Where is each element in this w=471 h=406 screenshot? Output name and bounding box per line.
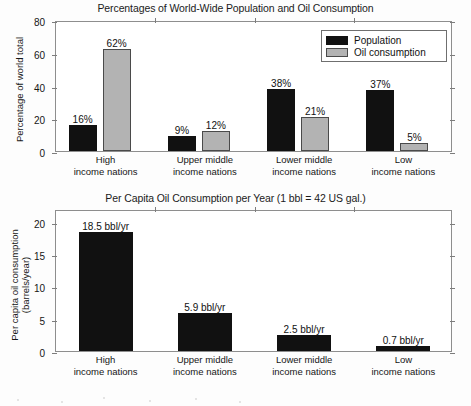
y-axis-tick: 10 bbox=[52, 288, 57, 289]
bottom-chart-title: Per Capita Oil Consumption per Year (1 b… bbox=[0, 192, 471, 204]
two-panel-bar-chart-figure: Percentages of World-Wide Population and… bbox=[0, 0, 471, 406]
bar-value-label: 21% bbox=[305, 106, 325, 117]
bar-value-label: 38% bbox=[271, 78, 291, 89]
x-axis-category-label: Lowincome nations bbox=[371, 154, 435, 178]
y-axis-tick-label: 5 bbox=[39, 315, 45, 326]
x-axis-category-label: Lower middleincome nations bbox=[272, 354, 336, 378]
y-axis-tick-label: 0 bbox=[39, 148, 45, 159]
bottom-chart-panel: Per Capita Oil Consumption per Year (1 b… bbox=[0, 192, 471, 406]
bar-population-0[interactable]: 16% bbox=[69, 125, 97, 151]
bar-population-3[interactable]: 37% bbox=[366, 90, 394, 151]
category-label-line-2: income nations bbox=[371, 366, 435, 378]
scan-artifact bbox=[0, 394, 471, 406]
y-axis-tick-right bbox=[450, 256, 455, 257]
y-axis-tick: 80 bbox=[52, 22, 57, 23]
legend-item-label: Oil consumption bbox=[354, 47, 426, 58]
y-axis-tick-right bbox=[450, 22, 455, 23]
bar-per-capita-oil-consumption-1[interactable]: 5.9 bbl/yr bbox=[178, 313, 232, 351]
y-axis-tick: 60 bbox=[52, 55, 57, 56]
bar-population-2[interactable]: 38% bbox=[267, 89, 295, 151]
x-axis-tick-top bbox=[155, 18, 156, 23]
y-axis-tick-right bbox=[450, 224, 455, 225]
y-axis-tick-right bbox=[450, 55, 455, 56]
y-axis-tick-right bbox=[450, 353, 455, 354]
legend-item-label: Population bbox=[354, 35, 401, 46]
bottom-chart-y-axis-title-line1: Per capita oil consumption bbox=[9, 215, 20, 355]
bar-value-label: 9% bbox=[175, 125, 189, 136]
y-axis-tick-right bbox=[450, 120, 455, 121]
bar-value-label: 62% bbox=[107, 38, 127, 49]
category-label-line-2: income nations bbox=[173, 166, 237, 178]
bar-oil-consumption-0[interactable]: 62% bbox=[103, 49, 131, 151]
bar-oil-consumption-3[interactable]: 5% bbox=[400, 143, 428, 151]
category-label-line-2: income nations bbox=[74, 166, 138, 178]
y-axis-tick: 15 bbox=[52, 256, 57, 257]
x-axis-category-label: Highincome nations bbox=[74, 154, 138, 178]
y-axis-tick: 5 bbox=[52, 321, 57, 322]
category-label-line-2: income nations bbox=[74, 366, 138, 378]
bar-value-label: 2.5 bbl/yr bbox=[284, 324, 325, 335]
x-axis-category-label: Lower middleincome nations bbox=[272, 154, 336, 178]
y-axis-tick-label: 15 bbox=[34, 251, 45, 262]
x-axis-tick-top bbox=[354, 18, 355, 23]
x-axis-tick-top bbox=[155, 207, 156, 212]
bar-value-label: 5% bbox=[407, 132, 421, 143]
bar-oil-consumption-2[interactable]: 21% bbox=[301, 117, 329, 151]
top-chart-title: Percentages of World-Wide Population and… bbox=[0, 2, 471, 14]
bar-population-1[interactable]: 9% bbox=[168, 136, 196, 151]
category-label-line-2: income nations bbox=[272, 166, 336, 178]
top-chart-panel: Percentages of World-Wide Population and… bbox=[0, 0, 471, 190]
x-axis-category-label: Highincome nations bbox=[74, 354, 138, 378]
category-label-line-1: Lower middle bbox=[272, 154, 336, 166]
top-chart-plot-area: 02040608016%62%Highincome nations9%12%Up… bbox=[55, 21, 452, 152]
bar-value-label: 16% bbox=[73, 114, 93, 125]
y-axis-tick-right bbox=[450, 321, 455, 322]
category-label-line-1: High bbox=[74, 154, 138, 166]
y-axis-tick-right bbox=[450, 288, 455, 289]
category-label-line-2: income nations bbox=[272, 366, 336, 378]
y-axis-tick-label: 60 bbox=[34, 49, 45, 60]
bar-per-capita-oil-consumption-0[interactable]: 18.5 bbl/yr bbox=[79, 232, 133, 351]
legend-item-oil-consumption[interactable]: Oil consumption bbox=[326, 46, 441, 58]
bottom-chart-y-axis-title-line2: (barrels/year) bbox=[20, 215, 31, 355]
black-square-icon bbox=[326, 36, 348, 45]
category-label-line-2: income nations bbox=[173, 366, 237, 378]
legend-item-population[interactable]: Population bbox=[326, 34, 441, 46]
y-axis-tick-label: 20 bbox=[34, 218, 45, 229]
y-axis-tick-label: 40 bbox=[34, 82, 45, 93]
y-axis-tick: 20 bbox=[52, 120, 57, 121]
category-label-line-1: Upper middle bbox=[173, 354, 237, 366]
bar-value-label: 12% bbox=[206, 120, 226, 131]
y-axis-tick: 0 bbox=[52, 353, 57, 354]
x-axis-category-label: Lowincome nations bbox=[371, 354, 435, 378]
bar-per-capita-oil-consumption-3[interactable]: 0.7 bbl/yr bbox=[376, 346, 430, 351]
category-label-line-1: Low bbox=[371, 154, 435, 166]
y-axis-tick-label: 80 bbox=[34, 17, 45, 28]
bar-per-capita-oil-consumption-2[interactable]: 2.5 bbl/yr bbox=[277, 335, 331, 351]
top-chart-legend: PopulationOil consumption bbox=[321, 30, 447, 62]
x-axis-tick-top bbox=[255, 207, 256, 212]
x-axis-category-label: Upper middleincome nations bbox=[173, 354, 237, 378]
category-label-line-1: High bbox=[74, 354, 138, 366]
x-axis-tick-top bbox=[255, 18, 256, 23]
bottom-chart-y-axis-title: Per capita oil consumption (barrels/year… bbox=[9, 215, 31, 355]
top-chart-y-axis-title: Percentage of world total bbox=[14, 25, 25, 155]
category-label-line-1: Upper middle bbox=[173, 154, 237, 166]
y-axis-tick-label: 0 bbox=[39, 348, 45, 359]
bottom-chart-plot-area: 0510152018.5 bbl/yrHighincome nations5.9… bbox=[55, 210, 452, 352]
bar-value-label: 0.7 bbl/yr bbox=[383, 335, 424, 346]
y-axis-tick: 0 bbox=[52, 153, 57, 154]
category-label-line-1: Lower middle bbox=[272, 354, 336, 366]
gray-square-icon bbox=[326, 48, 348, 57]
bar-value-label: 5.9 bbl/yr bbox=[184, 302, 225, 313]
y-axis-tick: 20 bbox=[52, 224, 57, 225]
category-label-line-1: Low bbox=[371, 354, 435, 366]
category-label-line-2: income nations bbox=[371, 166, 435, 178]
x-axis-tick-top bbox=[354, 207, 355, 212]
y-axis-tick-right bbox=[450, 88, 455, 89]
y-axis-tick: 40 bbox=[52, 88, 57, 89]
y-axis-tick-label: 20 bbox=[34, 115, 45, 126]
bar-oil-consumption-1[interactable]: 12% bbox=[202, 131, 230, 151]
y-axis-tick-label: 10 bbox=[34, 283, 45, 294]
bar-value-label: 37% bbox=[370, 79, 390, 90]
